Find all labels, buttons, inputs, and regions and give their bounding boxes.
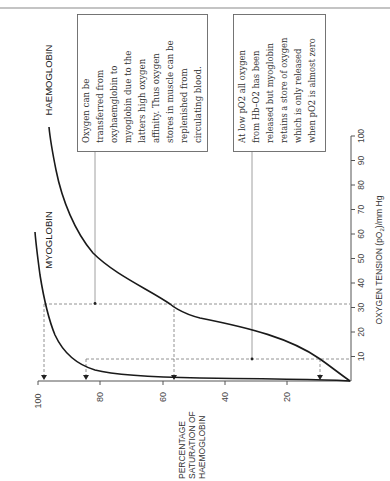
svg-text:when pO2 is almost zero: when pO2 is almost zero bbox=[307, 38, 317, 143]
svg-text:released but myoglobin: released but myoglobin bbox=[265, 43, 275, 143]
pO2-axis-title: OXYGEN TENSION (pO2)/mm Hg bbox=[374, 195, 385, 324]
svg-text:70: 70 bbox=[356, 205, 366, 215]
leader-dot-1 bbox=[94, 302, 97, 305]
svg-text:20: 20 bbox=[282, 392, 292, 402]
svg-text:90: 90 bbox=[356, 156, 366, 166]
svg-text:40: 40 bbox=[356, 278, 366, 288]
svg-text:30: 30 bbox=[356, 303, 366, 313]
svg-text:latters high oxygen: latters high oxygen bbox=[137, 58, 147, 143]
svg-text:oxyhaemglobin to: oxyhaemglobin to bbox=[109, 66, 119, 143]
svg-text:80: 80 bbox=[95, 392, 105, 402]
svg-text:100: 100 bbox=[356, 129, 366, 143]
leader-dot-2 bbox=[251, 358, 254, 361]
pO2-axis bbox=[351, 136, 355, 381]
myoglobin-label: MYOGLOBIN bbox=[43, 211, 54, 269]
svg-text:from Hb–O2 has been: from Hb–O2 has been bbox=[251, 50, 261, 143]
annotation-leaders bbox=[95, 151, 252, 359]
svg-text:retains a store of oxygen: retains a store of oxygen bbox=[279, 37, 289, 143]
svg-text:circulating blood.: circulating blood. bbox=[193, 66, 203, 143]
saturation-axis bbox=[38, 381, 351, 385]
pO2-tick-labels: 10 20 30 40 50 60 70 80 90 100 bbox=[356, 129, 366, 362]
svg-text:transferred from: transferred from bbox=[95, 70, 105, 143]
svg-text:which is only released: which is only released bbox=[293, 48, 303, 143]
svg-text:10: 10 bbox=[356, 352, 366, 362]
oxygen-dissociation-chart: 100 80 60 40 20 10 20 30 40 50 60 70 80 … bbox=[0, 0, 390, 481]
svg-text:HAEMOGLOBIN: HAEMOGLOBIN bbox=[197, 416, 207, 479]
svg-text:replenished from: replenished from bbox=[179, 68, 189, 143]
svg-text:80: 80 bbox=[356, 180, 366, 190]
svg-text:60: 60 bbox=[356, 229, 366, 239]
svg-text:SATURATION OF: SATURATION OF bbox=[187, 411, 197, 479]
svg-text:20: 20 bbox=[356, 327, 366, 337]
saturation-tick-labels: 100 80 60 40 20 bbox=[33, 392, 292, 409]
svg-text:50: 50 bbox=[356, 254, 366, 264]
svg-text:40: 40 bbox=[220, 392, 230, 402]
haemoglobin-curve bbox=[49, 127, 350, 381]
haemoglobin-label: HAEMOGLOBIN bbox=[43, 45, 54, 116]
svg-text:60: 60 bbox=[158, 392, 168, 402]
svg-text:stores in muscle can be: stores in muscle can be bbox=[165, 40, 175, 143]
reference-lines bbox=[44, 304, 350, 378]
svg-text:At low pO2 all oxygen: At low pO2 all oxygen bbox=[237, 49, 247, 144]
svg-text:PERCENTAGE: PERCENTAGE bbox=[177, 421, 187, 479]
svg-text:100: 100 bbox=[33, 393, 43, 408]
svg-text:Oxygen can be: Oxygen can be bbox=[81, 79, 91, 143]
svg-text:myoglobin due to the: myoglobin due to the bbox=[123, 51, 133, 143]
saturation-axis-title: PERCENTAGE SATURATION OF HAEMOGLOBIN bbox=[177, 411, 207, 479]
svg-text:affinity. Thus oxygen: affinity. Thus oxygen bbox=[151, 53, 161, 143]
